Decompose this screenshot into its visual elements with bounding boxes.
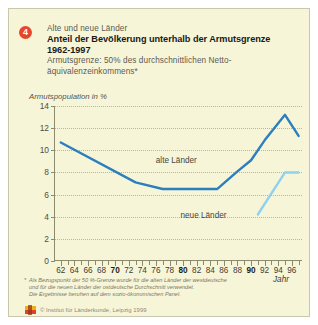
page-title-years: 1962-1997	[47, 45, 303, 56]
figure-panel: 4 Alte und neue Länder Anteil der Bevölk…	[8, 8, 310, 317]
chart-series-lines	[54, 106, 302, 261]
series-line	[61, 115, 299, 189]
y-tick-label: 14	[40, 101, 49, 111]
y-tick-label: 2	[44, 234, 49, 244]
x-tick-label: 74	[138, 266, 147, 275]
x-tick-label: 68	[97, 266, 106, 275]
footnote: * Als Bezugspunkt der 50 %-Grenze wurde …	[24, 277, 252, 299]
x-tick-mark	[149, 261, 150, 265]
x-tick-label: 76	[151, 266, 160, 275]
x-tick-label: 64	[70, 266, 79, 275]
figure-subtitle-line2: äquivalenzeinkommens*	[47, 67, 303, 77]
figure-subtitle-line1: Armutsgrenze: 50% des durchschnittlichen…	[47, 56, 303, 66]
x-tick-label: 86	[219, 266, 228, 275]
chart-plot-area: 02468101214 6264666870727476788082848688…	[54, 106, 302, 261]
page-title: Anteil der Bevölkerung unterhalb der Arm…	[47, 34, 303, 45]
x-tick-mark	[285, 261, 286, 265]
x-tick-mark	[163, 261, 164, 265]
series-line	[258, 172, 299, 214]
series-label: neue Länder	[180, 210, 226, 219]
series-label: alte Länder	[156, 156, 197, 165]
copyright-text: © Institut für Länderkunde, Leipzig 1999	[40, 307, 147, 313]
x-tick-label: 84	[206, 266, 215, 275]
x-tick-label: 94	[274, 266, 283, 275]
y-tick-mark	[51, 261, 55, 262]
x-tick-label: 88	[233, 266, 242, 275]
x-tick-label: 92	[260, 266, 269, 275]
x-tick-label: 66	[83, 266, 92, 275]
institute-logo-icon	[25, 305, 36, 315]
y-tick-label: 6	[44, 190, 49, 200]
figure-header: 4 Alte und neue Länder Anteil der Bevölk…	[19, 23, 303, 77]
y-tick-label: 4	[44, 212, 49, 222]
x-tick-mark	[122, 261, 123, 265]
x-tick-label: 72	[124, 266, 133, 275]
x-tick-mark	[244, 261, 245, 265]
x-tick-label: 62	[56, 266, 65, 275]
x-tick-mark	[299, 261, 300, 265]
x-tick-mark	[108, 261, 109, 265]
x-tick-label: 78	[165, 266, 174, 275]
title-block: Alte und neue Länder Anteil der Bevölker…	[47, 23, 303, 77]
x-tick-mark	[258, 261, 259, 265]
x-tick-label: 90	[246, 266, 255, 275]
y-tick-label: 8	[44, 167, 49, 177]
x-tick-label: 80	[179, 266, 188, 275]
x-tick-mark	[231, 261, 232, 265]
x-tick-mark	[81, 261, 82, 265]
footnote-line-1: Als Bezugspunkt der 50 %-Grenze wurde fü…	[24, 277, 252, 284]
x-tick-mark	[271, 261, 272, 265]
x-tick-label: 70	[111, 266, 120, 275]
x-axis-title: Jahr	[273, 275, 289, 284]
x-tick-mark	[68, 261, 69, 265]
x-tick-mark	[136, 261, 137, 265]
y-tick-label: 12	[40, 123, 49, 133]
x-tick-label: 82	[192, 266, 201, 275]
figure-kicker: Alte und neue Länder	[47, 23, 303, 34]
footnote-line-3: Die Ergebnisse beruhen auf dem sozio-öko…	[24, 291, 252, 298]
y-axis-title: Armutspopulation in %	[29, 92, 107, 101]
x-tick-mark	[217, 261, 218, 265]
y-tick-label: 10	[40, 145, 49, 155]
x-tick-mark	[176, 261, 177, 265]
copyright-row: © Institut für Länderkunde, Leipzig 1999	[25, 305, 147, 315]
figure-number-badge: 4	[19, 26, 32, 39]
footnote-marker: *	[24, 277, 26, 284]
x-tick-mark	[203, 261, 204, 265]
footnote-line-2: und für die neuen Länder der ostdeutsche…	[24, 284, 252, 291]
y-tick-label: 0	[44, 256, 49, 266]
x-tick-label: 96	[287, 266, 296, 275]
x-tick-mark	[95, 261, 96, 265]
x-tick-mark	[190, 261, 191, 265]
